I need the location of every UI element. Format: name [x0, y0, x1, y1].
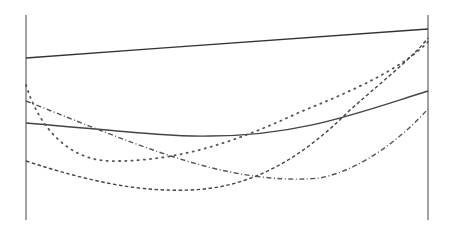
series-4-line — [26, 38, 428, 190]
series-5-line — [26, 101, 428, 179]
series-layer — [26, 29, 428, 190]
series-2-line — [26, 91, 428, 136]
line-chart — [0, 0, 452, 231]
series-3-line — [26, 42, 428, 161]
series-1-line — [26, 29, 428, 58]
chart-canvas — [0, 0, 452, 231]
